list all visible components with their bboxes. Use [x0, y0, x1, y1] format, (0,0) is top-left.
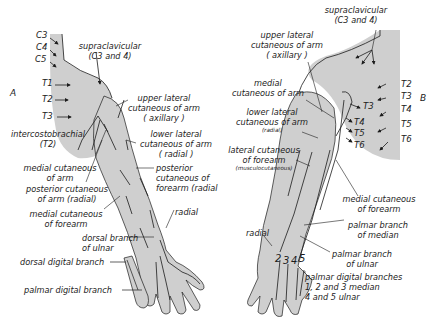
label-a-posterior-cutaneous-of-arm: posterior cutaneous of arm (radial)	[22, 184, 112, 204]
segment-label-b-t6: T6	[401, 134, 412, 144]
segment-label-b-t5: T5	[401, 119, 412, 129]
label-a-medial-cutaneous-of-arm: medial cutaneous of arm	[20, 163, 100, 183]
label-a-posterior-cutaneous-of-forearm: posterior cutaneous of forearm (radial	[156, 163, 218, 193]
segment-label-b-axilla-t6: T6	[354, 140, 365, 150]
segment-label-c5: C5	[35, 54, 46, 64]
segment-label-b-t2: T2	[401, 79, 412, 89]
label-b-lower-lateral-cutaneous-of-arm: lower lateral cutaneous of arm (radial)	[232, 107, 312, 134]
label-b-upper-lateral-cutaneous-of-arm: upper lateral cutaneous of arm ( axillar…	[244, 30, 330, 60]
label-b-medial-cutaneous-of-forearm: medial cutaneous of forearm	[336, 194, 422, 214]
label-a-dorsal-digital-branch: dorsal digital branch	[20, 257, 104, 267]
segment-label-b-axilla-t5: T5	[354, 128, 365, 138]
label-b-palmar-digital-branches: palmar digital branches 1, 2 and 3 media…	[305, 272, 402, 302]
digit-label-5: 5	[299, 253, 305, 264]
label-b-palmar-branch-of-median: palmar branch of median	[342, 220, 414, 240]
label-a-dorsal-branch-of-ulnar: dorsal branch of ulnar	[82, 233, 138, 253]
digit-label-4: 4	[291, 255, 297, 266]
label-b-medial-cutaneous-of-arm: medial cutaneous of arm	[228, 78, 308, 98]
segment-label-c3: C3	[36, 30, 47, 40]
label-a-medial-cutaneous-of-forearm: medial cutaneous of forearm	[26, 209, 106, 229]
figure-drawing	[0, 0, 437, 317]
label-a-supraclavicular: supraclavicular (C3 and 4)	[70, 41, 150, 61]
segment-label-t1: T1	[42, 78, 53, 88]
label-b-palmar-branch-of-ulnar: palmar branch of ulnar	[326, 249, 398, 269]
label-b-supraclavicular: supraclavicular (C3 and 4)	[316, 5, 396, 25]
segment-label-b-axilla-t4: T4	[354, 117, 365, 127]
label-a-upper-lateral-cutaneous-of-arm: upper lateral cutaneous of arm ( axillar…	[124, 93, 204, 123]
label-b-lateral-cutaneous-of-forearm: lateral cutaneous of forearm (musculocut…	[222, 145, 306, 172]
panel-b-letter: B	[420, 93, 426, 103]
segment-label-b-t4: T4	[401, 104, 412, 114]
label-a-palmar-digital-branch: palmar digital branch	[24, 285, 112, 295]
segment-label-b-t3: T3	[401, 91, 412, 101]
digit-label-2: 2	[275, 253, 281, 264]
label-a-lower-lateral-cutaneous-of-arm: lower lateral cutaneous of arm ( radial …	[134, 129, 218, 159]
segment-label-t2: T2	[42, 94, 53, 104]
segment-label-t3: T3	[42, 111, 53, 121]
label-b-radial: radial	[246, 228, 269, 238]
panel-a-letter: A	[10, 88, 16, 98]
digit-label-3: 3	[283, 255, 289, 266]
upper-limb-cutaneous-nerves-figure: A C3 C4 C5 T1 T2 T3 supraclavicular (C3 …	[0, 0, 437, 317]
segment-label-c4: C4	[36, 42, 47, 52]
label-a-intercostobrachial: intercostobrachial (T2)	[3, 129, 93, 149]
label-a-radial: radial	[175, 207, 198, 217]
segment-label-b-axilla-t3: T3	[363, 101, 374, 111]
